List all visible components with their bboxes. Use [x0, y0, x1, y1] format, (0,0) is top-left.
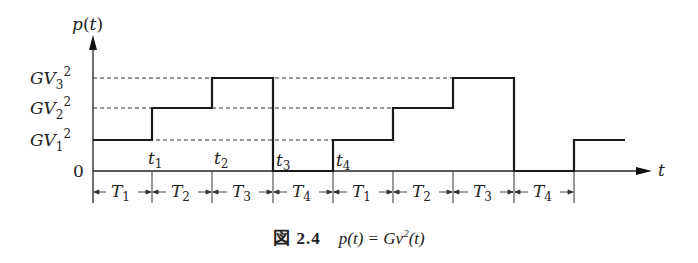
interval-label: T4: [533, 181, 552, 204]
y-axis-arrow-icon: [89, 35, 97, 50]
time-marker-t4: t4: [336, 150, 351, 173]
figure-number: 図 2.4: [273, 229, 321, 248]
y-tick-gv3: GV32: [30, 65, 71, 92]
y-tick-zero: 0: [73, 161, 84, 181]
interval-label: T1: [352, 181, 371, 204]
x-axis-arrow-icon: [636, 167, 652, 175]
interval-label: T4: [292, 181, 311, 204]
interval-label: T3: [473, 181, 492, 204]
interval-label: T2: [171, 181, 190, 204]
caption-eq-left: p(t) = Gv: [339, 229, 403, 248]
interval-label: T1: [111, 181, 130, 204]
power-step-waveform: [93, 78, 625, 171]
caption-eq-right: (t): [409, 229, 425, 248]
waveform-figure: p(t) t GV32 GV22 GV12 0 t1 t2 t3 t4 T1 T…: [0, 0, 698, 263]
time-marker-t2: t2: [214, 148, 228, 171]
time-marker-t3: t3: [276, 150, 290, 173]
figure-caption: 図 2.4p(t) = Gv2(t): [0, 224, 698, 249]
y-tick-gv1: GV12: [30, 127, 71, 154]
y-axis-label: p(t): [72, 14, 103, 34]
caption-equation: p(t) = Gv2(t): [339, 229, 425, 248]
interval-label: T2: [412, 181, 431, 204]
time-marker-t1: t1: [148, 148, 162, 171]
interval-label: T3: [232, 181, 251, 204]
x-axis-label: t: [658, 160, 665, 180]
y-tick-gv2: GV22: [30, 95, 71, 122]
